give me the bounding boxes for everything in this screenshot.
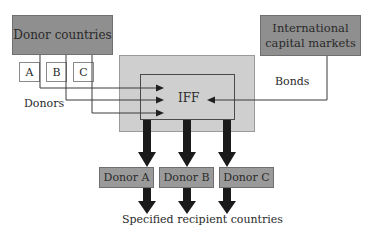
- arrowhead-icon: [156, 97, 164, 104]
- donor-a-label: Donor A: [104, 171, 150, 184]
- arrowhead-icon: [156, 110, 164, 117]
- donor-a-box: Donor A: [99, 167, 154, 188]
- recipients-label: Specified recipient countries: [122, 213, 283, 226]
- donor-b-box: Donor B: [159, 167, 214, 188]
- connectors: [0, 0, 374, 240]
- arrowhead-icon: [156, 85, 164, 92]
- donor-b-label: Donor B: [164, 171, 210, 184]
- donor-c-box: Donor C: [219, 167, 274, 188]
- donor-c-label: Donor C: [223, 171, 269, 184]
- arrowhead-icon: [207, 97, 215, 104]
